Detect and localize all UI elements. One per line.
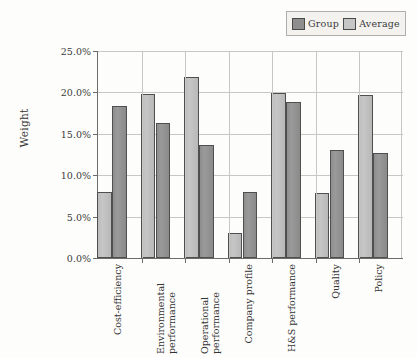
bar-average-1 — [141, 94, 156, 258]
y-axis-tick — [93, 258, 98, 259]
y-axis-title: Weight — [18, 98, 30, 158]
category-separator — [142, 51, 143, 258]
x-axis-label-line: H&S performance — [286, 264, 297, 352]
x-axis-label-5: Quality — [331, 264, 342, 299]
x-axis-label-3: Company profile — [244, 264, 255, 344]
legend-entry-average: Average — [343, 18, 400, 30]
x-axis-label-2: Operationalperformance — [200, 264, 221, 354]
bar-average-5 — [315, 193, 330, 258]
bar-group-5 — [330, 150, 345, 258]
plot-area: 0.0%5.0%10.0%15.0%20.0%25.0% — [97, 51, 403, 259]
bar-group-0 — [112, 106, 127, 258]
x-axis-label-line: performance — [167, 264, 178, 354]
y-axis-tick-label: 10.0% — [61, 170, 91, 181]
x-axis-labels: Cost-efficiencyEnvironmentalperformanceO… — [97, 264, 402, 356]
bar-group-1 — [156, 123, 171, 258]
x-axis-label-line: Operational — [199, 297, 210, 354]
category-separator — [316, 51, 317, 258]
x-axis-label-line: Environmental — [155, 283, 166, 354]
x-axis-tick — [316, 258, 317, 263]
x-axis-label-line: performance — [210, 264, 221, 354]
y-axis-tick-label: 15.0% — [61, 128, 91, 139]
y-axis-tick-label: 5.0% — [67, 211, 91, 222]
category-separator — [359, 51, 360, 258]
legend-entry-group: Group — [292, 18, 339, 30]
bar-average-3 — [228, 233, 243, 258]
y-axis-tick-label: 25.0% — [61, 46, 91, 57]
chart-legend: Group Average — [286, 11, 406, 36]
y-axis-tick — [93, 92, 98, 93]
x-axis-label-line: Quality — [330, 264, 341, 299]
bar-average-2 — [184, 77, 199, 258]
x-axis-label-0: Cost-efficiency — [113, 264, 124, 335]
category-separator — [229, 51, 230, 258]
legend-swatch-group — [292, 18, 305, 30]
bar-group-6 — [373, 153, 388, 258]
x-axis-tick — [229, 258, 230, 263]
x-axis-tick — [272, 258, 273, 263]
x-axis-label-line: Company profile — [243, 264, 254, 344]
bar-average-4 — [271, 93, 286, 258]
y-axis-tick-label: 20.0% — [61, 87, 91, 98]
gridline — [98, 51, 403, 52]
bar-group-4 — [286, 102, 301, 258]
y-axis-tick-label: 0.0% — [67, 253, 91, 264]
x-axis-tick — [359, 258, 360, 263]
legend-label-group: Group — [308, 18, 339, 29]
x-axis-label-6: Policy — [374, 264, 385, 293]
category-separator — [185, 51, 186, 258]
bar-chart: Group Average Weight 0.0%5.0%10.0%15.0%2… — [0, 0, 417, 357]
category-separator — [272, 51, 273, 258]
bar-group-2 — [199, 145, 214, 258]
legend-label-average: Average — [359, 18, 400, 29]
x-axis-label-line: Cost-efficiency — [112, 264, 123, 335]
y-axis-tick — [93, 175, 98, 176]
x-axis-tick — [185, 258, 186, 263]
legend-swatch-average — [343, 18, 356, 30]
bar-average-0 — [97, 192, 112, 258]
x-axis-tick — [142, 258, 143, 263]
x-axis-label-1: Environmentalperformance — [156, 264, 177, 354]
bar-group-3 — [243, 192, 258, 258]
y-axis-tick — [93, 134, 98, 135]
x-axis-label-4: H&S performance — [287, 264, 298, 352]
y-axis-tick — [93, 51, 98, 52]
x-axis-label-line: Policy — [373, 264, 384, 293]
bar-average-6 — [358, 95, 373, 258]
